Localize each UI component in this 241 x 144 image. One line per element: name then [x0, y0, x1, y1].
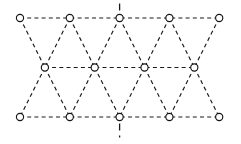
lattice-node-bottom-row-4: [216, 113, 223, 120]
lattice-node-bottom-row-0: [16, 113, 23, 120]
lattice-node-top-row-0: [16, 14, 23, 21]
lattice-edge-diagonal-upper-6: [169, 18, 194, 68]
lattice-canvas: [0, 0, 241, 144]
lattice-node-bottom-row-2: [116, 113, 123, 120]
lattice-node-bottom-row-3: [166, 113, 173, 120]
lattice-edge-diagonal-upper-0: [20, 18, 45, 68]
lattice-node-middle-row-2: [141, 64, 148, 71]
lattice-edge-diagonal-lower-7: [194, 68, 219, 118]
lattice-node-bottom-row-1: [66, 113, 73, 120]
lattice-node-top-row-4: [216, 14, 223, 21]
triangular-lattice-figure: [0, 0, 241, 144]
lattice-node-middle-row-1: [91, 64, 98, 71]
lattice-node-top-row-1: [66, 14, 73, 21]
lattice-edge-diagonal-lower-6: [169, 68, 194, 118]
lattice-edge-diagonal-upper-7: [194, 18, 219, 68]
lattice-edge-diagonal-lower-2: [70, 68, 95, 118]
lattice-edge-diagonal-upper-1: [45, 18, 70, 68]
edge-layer-diagonal-lower: [20, 68, 219, 118]
lattice-node-middle-row-0: [41, 64, 48, 71]
lattice-edge-diagonal-upper-3: [95, 18, 120, 68]
lattice-node-top-row-3: [166, 14, 173, 21]
lattice-edge-diagonal-lower-3: [95, 68, 120, 118]
lattice-edge-diagonal-lower-5: [145, 68, 170, 118]
lattice-edge-diagonal-upper-5: [145, 18, 170, 68]
lattice-node-top-row-2: [116, 14, 123, 21]
lattice-node-middle-row-3: [191, 64, 198, 71]
lattice-edge-diagonal-lower-0: [20, 68, 45, 118]
edge-layer-horizontal: [20, 18, 219, 117]
lattice-edge-diagonal-upper-4: [120, 18, 145, 68]
edge-layer-diagonal-upper: [20, 18, 219, 68]
lattice-edge-diagonal-lower-1: [45, 68, 70, 118]
lattice-edge-diagonal-lower-4: [120, 68, 145, 118]
lattice-edge-diagonal-upper-2: [70, 18, 95, 68]
